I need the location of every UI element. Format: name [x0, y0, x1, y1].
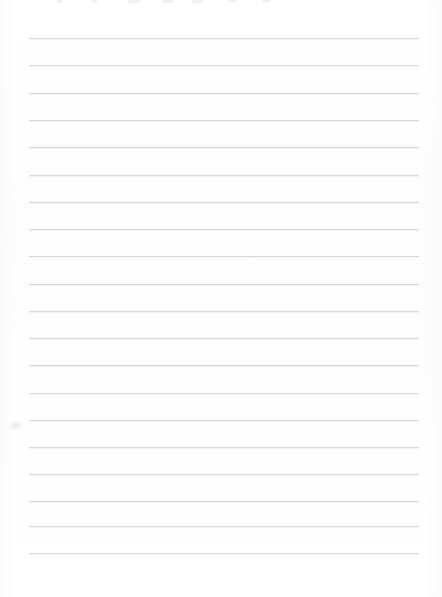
margin-smudge-artifact: [9, 421, 22, 430]
ruled-line: [29, 501, 419, 502]
ruled-line: [29, 311, 419, 312]
ruled-line: [29, 256, 419, 257]
ruled-line: [29, 526, 419, 527]
ruled-line: [29, 474, 419, 475]
ruled-line: [29, 338, 419, 339]
ruled-line: [29, 65, 419, 66]
ruled-line: [29, 393, 419, 394]
ruled-line: [29, 175, 419, 176]
ruled-line: [29, 38, 419, 39]
ruled-line: [29, 93, 419, 94]
ruled-line: [29, 229, 419, 230]
ruled-line-group: [0, 0, 442, 597]
document-page: Blank lined paper scan: [0, 0, 442, 597]
ruled-line: [29, 553, 419, 554]
ruled-line: [29, 420, 419, 421]
ruled-line: [29, 202, 419, 203]
ruled-line: [29, 284, 419, 285]
ruled-line: [29, 365, 419, 366]
ruled-line: [29, 147, 419, 148]
ruled-line: [29, 447, 419, 448]
ruled-line: [29, 120, 419, 121]
